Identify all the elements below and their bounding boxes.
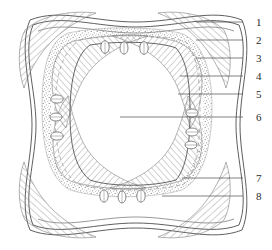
label-8: 8 (256, 191, 262, 202)
label-6: 6 (256, 112, 262, 123)
label-3: 3 (256, 53, 262, 64)
bud-left-2 (50, 113, 62, 121)
figure-canvas: 12345678 (0, 0, 272, 250)
bud-top-3 (140, 42, 148, 55)
bud-right-3 (185, 141, 197, 149)
cross-section-drawing (0, 0, 272, 250)
label-4: 4 (256, 71, 262, 82)
bud-group-bottom (100, 190, 145, 203)
bud-bottom-2 (118, 191, 126, 203)
bud-group-left (50, 95, 63, 140)
bud-right-1 (186, 109, 198, 117)
bud-left-1 (51, 95, 64, 103)
label-5: 5 (256, 89, 262, 100)
bud-top-2 (120, 42, 128, 54)
bud-top-1 (101, 41, 109, 54)
label-1: 1 (256, 17, 262, 28)
label-7: 7 (256, 173, 262, 184)
label-2: 2 (256, 35, 262, 46)
bud-left-3 (51, 132, 64, 140)
bud-bottom-1 (100, 190, 108, 202)
inner-cavity-wall (70, 42, 190, 185)
bud-bottom-3 (137, 190, 145, 202)
bud-right-2 (186, 128, 198, 136)
